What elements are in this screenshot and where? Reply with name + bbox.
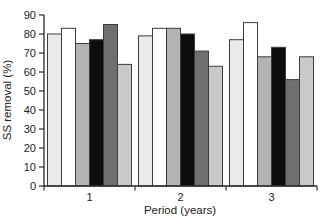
y-tick-label: 30 (24, 123, 36, 135)
bar-period3-series3 (258, 57, 272, 186)
bar-period1-series1 (48, 34, 62, 186)
y-tick-label: 40 (24, 104, 36, 116)
category-label: 3 (268, 191, 274, 203)
x-axis-title: Period (years) (144, 204, 216, 216)
bar-period1-series5 (104, 25, 118, 187)
y-tick-label: 20 (24, 142, 36, 154)
bar-period3-series2 (244, 23, 258, 186)
bar-period1-series3 (76, 44, 90, 187)
y-axis-title: SS removal (%) (1, 60, 13, 141)
bars-group (48, 23, 314, 186)
y-tick-label: 0 (30, 180, 36, 192)
ss-removal-bar-chart: 0102030405060708090123 SS removal (%) Pe… (0, 0, 323, 223)
scanned-figure: 0102030405060708090123 SS removal (%) Pe… (0, 0, 323, 223)
bar-period1-series6 (118, 64, 132, 186)
bar-period2-series3 (167, 28, 181, 186)
bar-period2-series1 (139, 36, 153, 186)
category-label: 2 (177, 191, 183, 203)
category-label: 1 (86, 191, 92, 203)
y-tick-label: 50 (24, 85, 36, 97)
bar-period2-series4 (181, 34, 195, 186)
bar-period2-series5 (195, 51, 209, 186)
y-tick-label: 90 (24, 9, 36, 21)
bar-period1-series2 (62, 28, 76, 186)
y-tick-label: 10 (24, 161, 36, 173)
bar-period2-series2 (153, 28, 167, 186)
bar-period3-series1 (230, 40, 244, 186)
y-tick-label: 60 (24, 66, 36, 78)
y-tick-label: 80 (24, 28, 36, 40)
bar-period3-series5 (286, 80, 300, 186)
y-tick-label: 70 (24, 47, 36, 59)
bar-period1-series4 (90, 40, 104, 186)
bar-period2-series6 (209, 66, 223, 186)
bar-period3-series4 (272, 47, 286, 186)
bar-period3-series6 (300, 57, 314, 186)
